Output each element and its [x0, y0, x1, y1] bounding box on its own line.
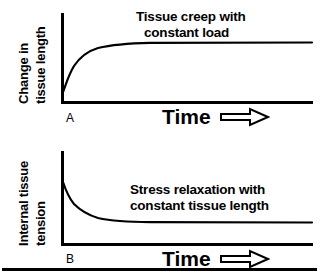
x-axis-label-a: Time [162, 106, 211, 127]
y-axis-label-b-secondary: tension [33, 201, 48, 246]
annotation-b-line2: constant tissue length [130, 198, 269, 214]
creep-curve [63, 42, 312, 92]
annotation-a: Tissue creep with constant load [136, 9, 246, 41]
y-axis-label-b-line2: tension [33, 201, 48, 246]
right-arrow-icon [220, 249, 270, 269]
y-axis-label-a: Change in [16, 43, 31, 104]
panel-a: Change in tissue length Tissue creep wit… [0, 0, 320, 133]
annotation-b-line1: Stress relaxation with [130, 182, 269, 198]
y-axis-label-a-line2: tissue length [33, 26, 48, 104]
x-axis-label-b: Time [162, 248, 211, 269]
right-arrow-icon [220, 107, 270, 127]
x-axis-caption-a: Time [162, 106, 270, 127]
panel-letter-a: A [66, 111, 74, 125]
x-axis-caption-b: Time [162, 248, 270, 269]
y-axis-label-a-line1: Change in [16, 43, 31, 104]
y-axis-label-a-secondary: tissue length [33, 26, 48, 104]
annotation-b: Stress relaxation with constant tissue l… [130, 182, 269, 214]
panel-letter-b: B [66, 252, 74, 266]
bottom-divider-rule [2, 268, 317, 271]
panel-b: Internal tissue tension Stress relaxatio… [0, 138, 320, 271]
y-axis-label-b: Internal tissue [16, 161, 31, 246]
y-axis-label-b-line1: Internal tissue [16, 161, 31, 246]
annotation-a-line2: constant load [136, 25, 246, 41]
annotation-a-line1: Tissue creep with [136, 9, 246, 25]
figure-creep-stress-relaxation: Change in tissue length Tissue creep wit… [0, 0, 320, 277]
